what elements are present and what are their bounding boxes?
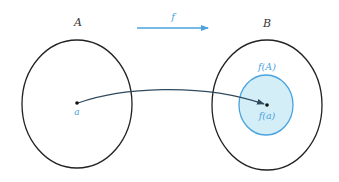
image-element-label: f(a)	[258, 110, 276, 121]
element-a-point	[75, 101, 79, 105]
element-a-label: a	[74, 107, 79, 117]
set-a-label: A	[73, 16, 82, 29]
image-element-point	[265, 103, 269, 107]
set-b-label: B	[262, 17, 271, 30]
function-label: f	[170, 11, 177, 22]
mapping-diagram: A B f(A) f a f(a)	[0, 0, 339, 182]
image-set-label: f(A)	[257, 61, 276, 72]
mapping-curve	[78, 90, 264, 104]
